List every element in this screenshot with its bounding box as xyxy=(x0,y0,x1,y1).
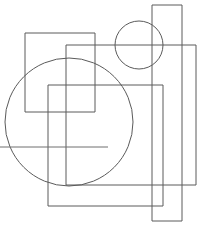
rect-tall-right xyxy=(152,5,182,221)
circle-large xyxy=(5,58,133,186)
figure-canvas xyxy=(0,0,207,231)
rect-large-mid xyxy=(66,45,196,185)
line-drawing-figure xyxy=(0,0,207,231)
rect-lower-inner xyxy=(48,85,163,206)
